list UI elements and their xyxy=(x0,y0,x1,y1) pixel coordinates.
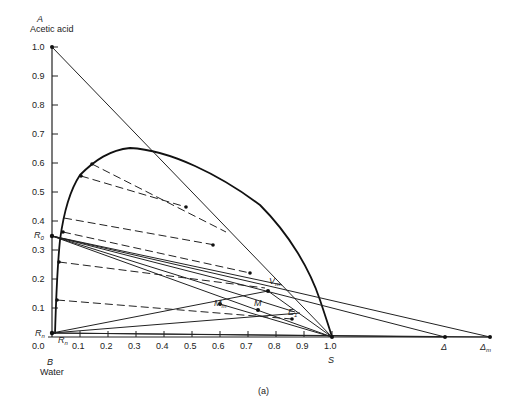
label-delta: Δ xyxy=(441,342,447,352)
label-r0: R0 xyxy=(34,230,44,241)
x-tick-1.0: 1.0 xyxy=(324,341,337,351)
y-tick-0.1: 0.1 xyxy=(32,303,45,313)
ternary-diagram xyxy=(0,0,521,415)
tie-lines xyxy=(57,164,292,319)
figure-caption: (a) xyxy=(258,386,269,396)
label-rn: Rn xyxy=(35,328,45,339)
y-tick-0.8: 0.8 xyxy=(32,100,45,110)
x-tick-0.1: 0.1 xyxy=(72,341,85,351)
y-tick-0.5: 0.5 xyxy=(32,187,45,197)
y-tick-0.0: 0.0 xyxy=(32,341,45,351)
y-tick-0.3: 0.3 xyxy=(32,245,45,255)
apex-s-letter: S xyxy=(328,355,334,365)
x-tick-0.4: 0.4 xyxy=(156,341,169,351)
label-delta-m: Δm xyxy=(480,342,491,353)
y-tick-1.0: 1.0 xyxy=(32,42,45,52)
x-tick-0.2: 0.2 xyxy=(100,341,113,351)
y-tick-0.7: 0.7 xyxy=(32,129,45,139)
x-tick-0.8: 0.8 xyxy=(268,341,281,351)
x-tick-0.3: 0.3 xyxy=(128,341,141,351)
hypotenuse-line xyxy=(52,47,332,337)
x-tick-0.7: 0.7 xyxy=(240,341,253,351)
axes xyxy=(48,47,490,337)
apex-b-name: Water xyxy=(40,367,64,377)
label-rn-2: Rn xyxy=(58,335,68,346)
y-tick-0.6: 0.6 xyxy=(32,158,45,168)
y-tick-0.9: 0.9 xyxy=(32,71,45,81)
x-tick-0.9: 0.9 xyxy=(296,341,309,351)
x-tick-0.6: 0.6 xyxy=(212,341,225,351)
apex-b-letter: B xyxy=(47,357,53,367)
apex-a-letter: A xyxy=(37,14,43,24)
apex-a-name: Acetic acid xyxy=(30,24,74,34)
y-tick-0.2: 0.2 xyxy=(32,274,45,284)
label-e1: E1 xyxy=(288,307,297,318)
label-m: M xyxy=(254,298,262,308)
label-mm: Mm xyxy=(214,298,227,309)
data-points xyxy=(50,45,492,339)
label-vm: Vm xyxy=(269,276,280,287)
x-tick-0.5: 0.5 xyxy=(184,341,197,351)
y-tick-0.4: 0.4 xyxy=(32,216,45,226)
